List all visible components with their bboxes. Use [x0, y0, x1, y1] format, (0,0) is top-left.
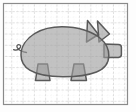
figure-canvas: Pig silhouette on grid paper [0, 0, 136, 112]
body [21, 27, 109, 77]
pig-grid-figure: Pig silhouette on grid paper [0, 0, 136, 112]
